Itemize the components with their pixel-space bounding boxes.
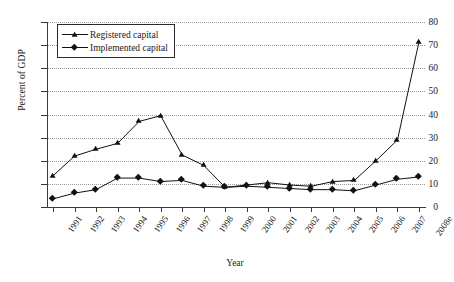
- x-tick-label: 2006: [389, 214, 408, 234]
- x-tick-label: 2003: [324, 214, 343, 234]
- y-tick-mark: [41, 68, 47, 69]
- x-tick-label: 1992: [87, 214, 106, 234]
- x-tick-label: 2002: [302, 214, 321, 234]
- x-tick-mark: [290, 207, 291, 212]
- x-tick-label: 2005: [367, 214, 386, 234]
- chart-legend: Registered capital Implemented capital: [57, 24, 175, 58]
- x-tick-mark: [96, 207, 97, 212]
- y-tick-label: 30: [398, 133, 438, 143]
- x-tick-mark: [268, 207, 269, 212]
- y-tick-label: 50: [398, 86, 438, 96]
- y-tick-label: 60: [398, 63, 438, 73]
- x-tick-mark: [419, 207, 420, 212]
- x-tick-label: 1996: [173, 214, 192, 234]
- y-axis-title: Percent of GDP: [17, 10, 27, 150]
- x-axis-line: [47, 207, 426, 208]
- x-tick-label: 1999: [238, 214, 257, 234]
- x-tick-label: 1995: [152, 214, 171, 234]
- y-tick-mark: [41, 91, 47, 92]
- x-tick-mark: [118, 207, 119, 212]
- x-tick-mark: [333, 207, 334, 212]
- x-tick-mark: [161, 207, 162, 212]
- y-tick-label: 20: [398, 156, 438, 166]
- x-tick-label: 2000: [259, 214, 278, 234]
- y-tick-mark: [41, 207, 47, 208]
- x-tick-label: 2008e: [433, 214, 454, 238]
- x-tick-label: 1998: [216, 214, 235, 234]
- x-tick-label: 2001: [281, 214, 300, 234]
- x-tick-label: 1994: [130, 214, 149, 234]
- series-line-implemented: [53, 177, 419, 199]
- y-tick-label: 40: [398, 110, 438, 120]
- legend-label-implemented-capital: Implemented capital: [88, 43, 168, 53]
- x-tick-mark: [182, 207, 183, 212]
- x-tick-mark: [204, 207, 205, 212]
- series-line-registered: [53, 42, 419, 188]
- y-tick-mark: [41, 161, 47, 162]
- legend-item-implemented-capital: Implemented capital: [62, 41, 168, 54]
- x-tick-label: 2004: [346, 214, 365, 234]
- y-tick-label: 70: [398, 40, 438, 50]
- legend-marker-diamond-icon: [62, 42, 88, 54]
- y-tick-label: 10: [398, 179, 438, 189]
- x-tick-mark: [225, 207, 226, 212]
- y-tick-label: 0: [398, 202, 438, 212]
- x-tick-label: 1991: [66, 214, 85, 234]
- x-tick-mark: [247, 207, 248, 212]
- y-tick-mark: [41, 138, 47, 139]
- x-tick-mark: [354, 207, 355, 212]
- y-tick-label: 80: [398, 17, 438, 27]
- x-tick-label: 1993: [109, 214, 128, 234]
- y-tick-mark: [41, 184, 47, 185]
- y-tick-mark: [41, 45, 47, 46]
- y-axis-line: [47, 22, 48, 208]
- x-axis-title: Year: [40, 258, 430, 268]
- y-tick-mark: [41, 22, 47, 23]
- x-tick-mark: [311, 207, 312, 212]
- x-tick-mark: [397, 207, 398, 212]
- x-tick-mark: [75, 207, 76, 212]
- legend-label-registered-capital: Registered capital: [88, 30, 158, 40]
- x-tick-mark: [376, 207, 377, 212]
- y-tick-mark: [41, 115, 47, 116]
- x-tick-mark: [139, 207, 140, 212]
- x-tick-label: 2007: [410, 214, 429, 234]
- x-tick-label: 1997: [195, 214, 214, 234]
- legend-marker-triangle-icon: [62, 29, 88, 41]
- x-tick-mark: [53, 207, 54, 212]
- legend-item-registered-capital: Registered capital: [62, 28, 168, 41]
